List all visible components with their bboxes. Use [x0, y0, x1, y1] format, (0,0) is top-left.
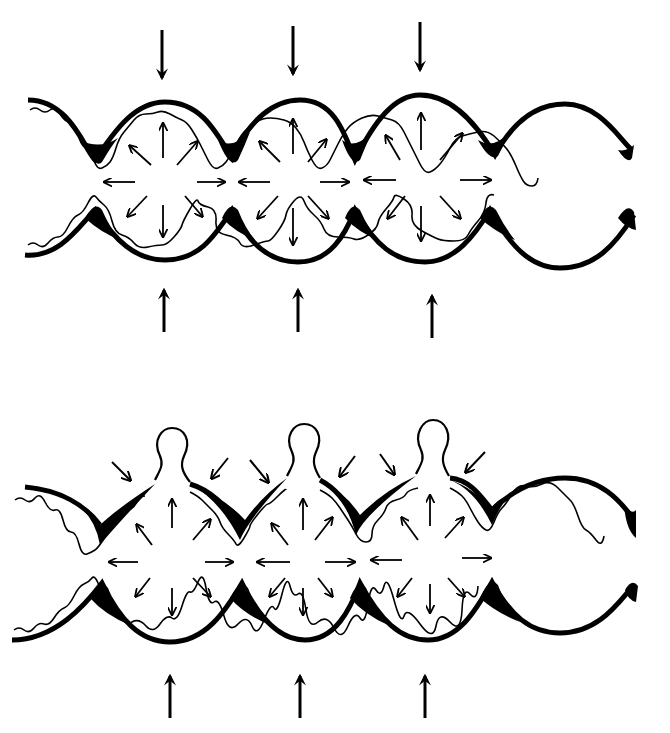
top-pouch-1-pressure-arrows: [105, 124, 224, 236]
bottom-pouch-2-pressure-arrows: [258, 500, 354, 614]
top-external-arrows-above: [162, 22, 420, 78]
top-upper-wall: [28, 95, 632, 160]
bottom-external-arrows-below: [170, 676, 425, 718]
diagram-canvas: [0, 0, 670, 733]
diverticula: [155, 420, 449, 482]
top-pouch-2-pressure-arrows: [240, 120, 348, 244]
bottom-pouch-1-pressure-arrows: [110, 500, 232, 614]
bottom-panel: [12, 420, 638, 718]
diagram-svg: [0, 0, 670, 733]
top-panel: [25, 22, 636, 338]
top-external-arrows-below: [164, 290, 432, 338]
top-lower-wedges: [85, 206, 636, 240]
bottom-diverticula-inward-arrows: [112, 452, 485, 482]
top-lower-wall: [25, 210, 634, 268]
